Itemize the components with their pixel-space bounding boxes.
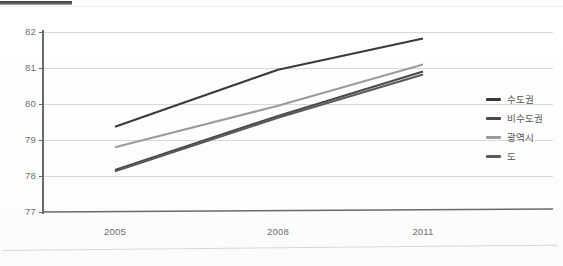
legend-color-swatch-icon [486,98,501,101]
legend-item-label: 비수도권 [507,113,543,124]
legend-item[interactable]: 광역시 [486,130,560,145]
gridlines [39,32,553,212]
y-axis-tick-label: 79 [14,134,36,145]
legend-item-label: 도 [507,151,516,162]
legend-color-swatch-icon [486,136,501,139]
y-axis-tick-label: 78 [14,170,36,181]
y-axis-tick-label: 81 [14,62,36,73]
series-line [115,38,423,126]
y-axis-tick-label: 80 [14,98,36,109]
x-axis-tick-label: 2011 [403,226,443,237]
y-axis-tick-label: 82 [14,26,36,37]
x-axis-tick-label: 2008 [258,226,298,237]
legend-color-swatch-icon [486,117,501,120]
legend-item-label: 광역시 [507,132,534,143]
series-lines [115,38,423,171]
legend-item[interactable]: 비수도권 [486,111,560,126]
series-line [115,64,423,147]
legend-color-swatch-icon [486,155,501,158]
axis-lines [43,30,553,214]
chart-page: 828180797877 200520082011 수도권비수도권광역시도 [0,0,563,266]
legend-item[interactable]: 수도권 [486,92,560,107]
legend-item[interactable]: 도 [486,149,560,164]
legend-item-label: 수도권 [507,94,534,105]
y-axis-tick-label: 77 [14,206,36,217]
x-axis-tick-label: 2005 [95,226,135,237]
chart-legend: 수도권비수도권광역시도 [486,92,560,168]
series-line [115,74,423,171]
line-chart: 828180797877 200520082011 [0,0,563,266]
